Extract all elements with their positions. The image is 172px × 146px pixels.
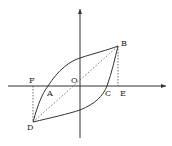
label-c: C xyxy=(105,89,111,98)
label-e: E xyxy=(120,89,126,98)
hysteresis-diagram: O A B C D E F xyxy=(0,0,172,146)
label-a: A xyxy=(46,89,53,98)
label-b: B xyxy=(121,39,127,48)
label-o: O xyxy=(71,76,78,85)
label-d: D xyxy=(27,123,33,132)
label-f: F xyxy=(29,76,35,85)
